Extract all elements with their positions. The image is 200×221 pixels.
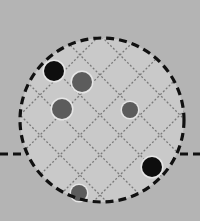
dot-large-black: [142, 157, 162, 177]
diagram-svg: [0, 0, 200, 221]
dot-medium-gray: [72, 72, 92, 92]
diagram-canvas: [0, 0, 200, 221]
sample-circle-fill: [20, 38, 184, 202]
dot-small-gray: [122, 102, 138, 118]
dot-large-black: [44, 61, 64, 81]
dot-medium-gray: [52, 99, 72, 119]
